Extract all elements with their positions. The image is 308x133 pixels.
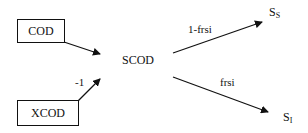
node-xcod-label: XCOD (31, 106, 65, 121)
node-scod-label: SCOD (122, 53, 154, 68)
arrow-cod-to-scod (64, 42, 100, 54)
edge-label-scod-si: frsi (220, 76, 235, 88)
node-ss-label: SS (269, 5, 280, 20)
node-xcod: XCOD (17, 100, 79, 126)
node-si-label: SI (283, 110, 292, 125)
edge-label-xcod-scod: -1 (75, 76, 84, 88)
arrow-scod-to-ss (173, 22, 262, 53)
edge-label-scod-ss: 1-frsi (188, 23, 212, 35)
node-cod: COD (17, 19, 65, 43)
node-cod-label: COD (28, 24, 53, 39)
